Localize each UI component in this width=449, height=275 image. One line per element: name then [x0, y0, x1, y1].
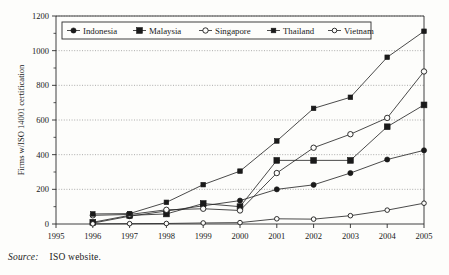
x-tick-label-1999: 1999: [195, 231, 212, 241]
x-tick-label-2004: 2004: [379, 231, 397, 241]
datapoint-thailand-1999: [201, 182, 206, 187]
y-tick-label-800: 800: [36, 80, 49, 90]
datapoint-thailand-1998: [164, 200, 169, 205]
y-tick-label-1000: 1000: [32, 46, 49, 56]
datapoint-vietnam-1996: [91, 222, 96, 227]
x-tick-label-1997: 1997: [121, 231, 138, 241]
datapoint-thailand-2002: [311, 106, 316, 111]
datapoint-malaysia-2005: [421, 102, 427, 108]
datapoint-singapore-2004: [385, 115, 390, 120]
x-tick-label-2000: 2000: [232, 231, 249, 241]
chart-legend: IndonesiaMalaysiaSingaporeThailandVietna…: [62, 22, 374, 39]
legend-marker-malaysia: [137, 28, 143, 34]
datapoint-thailand-2005: [422, 29, 427, 34]
y-tick-label-0: 0: [45, 219, 49, 229]
datapoint-singapore-2002: [311, 145, 316, 150]
source-note: Source:ISO website.: [8, 252, 101, 262]
x-tick-label-2002: 2002: [305, 231, 322, 241]
source-label: Source:: [8, 252, 39, 262]
datapoint-thailand-1997: [127, 211, 132, 216]
legend-label-thailand: Thailand: [283, 26, 315, 36]
datapoint-vietnam-1997: [127, 221, 132, 226]
datapoint-singapore-1999: [201, 206, 206, 211]
datapoint-malaysia-2001: [274, 157, 280, 163]
datapoint-malaysia-2004: [384, 124, 390, 130]
legend-label-singapore: Singapore: [215, 26, 251, 36]
datapoint-indonesia-2002: [311, 182, 316, 187]
legend-label-indonesia: Indonesia: [83, 26, 117, 36]
x-tick-label-2005: 2005: [416, 231, 433, 241]
datapoint-singapore-2005: [421, 69, 426, 74]
datapoint-thailand-1996: [91, 212, 96, 217]
datapoint-malaysia-1999: [200, 201, 206, 207]
x-tick-label-1998: 1998: [158, 231, 175, 241]
datapoint-thailand-2001: [275, 139, 280, 144]
legend-marker-indonesia: [71, 28, 76, 33]
datapoint-singapore-1998: [164, 207, 169, 212]
datapoint-indonesia-2000: [237, 198, 242, 203]
datapoint-vietnam-1999: [201, 221, 206, 226]
legend-label-malaysia: Malaysia: [149, 26, 181, 36]
y-tick-label-600: 600: [36, 115, 49, 125]
datapoint-singapore-2000: [237, 208, 242, 213]
datapoint-indonesia-2004: [385, 157, 390, 162]
legend-marker-thailand: [271, 28, 276, 33]
datapoint-singapore-2003: [348, 132, 353, 137]
x-tick-label-2003: 2003: [342, 231, 359, 241]
legend-marker-singapore: [203, 28, 208, 33]
datapoint-malaysia-2003: [348, 157, 354, 163]
x-tick-label-2001: 2001: [268, 231, 285, 241]
datapoint-indonesia-2001: [274, 187, 279, 192]
datapoint-indonesia-2003: [348, 170, 353, 175]
y-axis-title: Firms w/ISO 14001 certification: [16, 64, 26, 175]
datapoint-thailand-2004: [385, 55, 390, 60]
datapoint-vietnam-2004: [385, 208, 390, 213]
x-tick-label-1995: 1995: [48, 231, 65, 241]
datapoint-thailand-2000: [238, 169, 243, 174]
y-tick-label-200: 200: [36, 184, 49, 194]
iso-certification-line-chart: 020040060080010001200 199519961997199819…: [0, 0, 449, 275]
datapoint-singapore-2001: [274, 170, 279, 175]
y-tick-label-400: 400: [36, 150, 49, 160]
datapoint-thailand-2003: [348, 95, 353, 100]
datapoint-vietnam-2003: [348, 213, 353, 218]
datapoint-vietnam-2000: [238, 220, 243, 225]
datapoint-vietnam-1998: [164, 221, 169, 226]
source-text: ISO website.: [50, 252, 101, 262]
legend-marker-vietnam: [332, 28, 337, 33]
datapoint-indonesia-2005: [421, 148, 426, 153]
datapoint-vietnam-2002: [311, 217, 316, 222]
datapoint-malaysia-2002: [311, 157, 317, 163]
datapoint-vietnam-2001: [275, 217, 280, 222]
y-tick-label-1200: 1200: [32, 11, 49, 21]
datapoint-vietnam-2005: [422, 201, 427, 206]
legend-label-vietnam: Vietnam: [344, 26, 374, 36]
x-tick-label-1996: 1996: [84, 231, 101, 241]
figure-container: 020040060080010001200 199519961997199819…: [0, 0, 449, 275]
